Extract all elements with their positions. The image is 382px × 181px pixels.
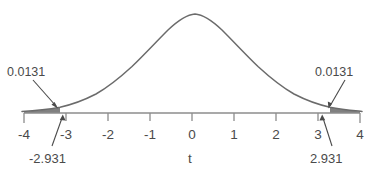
tick-label-1: 1 — [224, 128, 244, 142]
t-distribution-figure: 0.0131 0.0131 -4 -3 -2 -1 0 1 2 3 4 -2.9… — [0, 0, 382, 181]
tick-label-2: 2 — [266, 128, 286, 142]
tick-label-minus-4: -4 — [14, 128, 34, 142]
left-area-label: 0.0131 — [7, 66, 45, 79]
x-axis-title: t — [188, 152, 192, 166]
left-area-arrow — [33, 80, 58, 108]
tick-label-minus-1: -1 — [140, 128, 160, 142]
right-area-arrow — [328, 80, 345, 109]
x-axis-ticks — [24, 113, 360, 123]
density-curve — [22, 14, 362, 112]
tick-label-minus-2: -2 — [98, 128, 118, 142]
right-area-label: 0.0131 — [315, 66, 353, 79]
tick-label-0: 0 — [182, 128, 202, 142]
right-critical-label: 2.931 — [310, 152, 343, 165]
tick-label-3: 3 — [308, 128, 328, 142]
left-critical-label: -2.931 — [29, 152, 66, 165]
tick-label-minus-3: -3 — [56, 128, 76, 142]
tick-label-4: 4 — [350, 128, 370, 142]
